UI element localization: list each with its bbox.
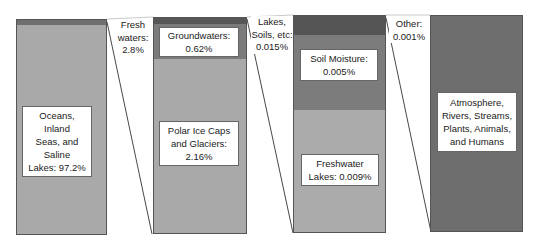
bar-lakes-soils (293, 15, 386, 233)
label-fresh-waters: Fresh waters: 2.8% (116, 19, 150, 57)
label-groundwaters: Groundwaters: 0.62% (159, 27, 239, 57)
label-oceans: Oceans, Inland Seas, and Saline Lakes: 9… (22, 106, 92, 177)
label-lakes-soils: Lakes, Soils, etc: 0.015% (251, 16, 293, 54)
label-soil-moisture: Soil Moisture: 0.005% (300, 49, 378, 81)
water-distribution-chart: Oceans, Inland Seas, and Saline Lakes: 9… (0, 0, 539, 247)
segment-other (294, 16, 385, 35)
label-atmosphere: Atmosphere, Rivers, Streams, Plants, Ani… (437, 92, 517, 152)
label-freshwater-lakes: Freshwater Lakes: 0.009% (301, 154, 379, 186)
label-polar-ice: Polar Ice Caps and Glaciers: 2.16% (159, 121, 239, 166)
label-other: Other: 0.001% (389, 18, 429, 43)
